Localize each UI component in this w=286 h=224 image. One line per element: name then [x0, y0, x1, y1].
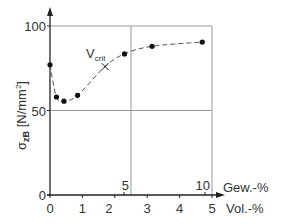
- svg-text:σzB [N/mm2]: σzB [N/mm2]: [14, 81, 31, 150]
- x-label-vol: Vol.-%: [226, 201, 264, 216]
- vcrit-label: Vcrit: [86, 46, 106, 63]
- y-axis-label: σzB [N/mm2]: [14, 81, 31, 150]
- data-point: [75, 93, 80, 98]
- y-label-subscript: zB: [21, 130, 31, 142]
- y-tick-label: 100: [24, 19, 46, 34]
- data-points: [47, 39, 204, 103]
- axes: [47, 7, 225, 198]
- dashed-trend-curve: [50, 42, 202, 102]
- data-point: [47, 62, 52, 67]
- vcrit-annotation: Vcrit: [86, 46, 109, 70]
- x-tick-label-vol: 0: [46, 201, 53, 216]
- x-tick-label-gew: 10: [196, 178, 210, 193]
- y-label-unit: [N/mm: [14, 89, 29, 131]
- x-tick-label-vol: 1: [79, 201, 86, 216]
- data-point: [200, 39, 205, 44]
- x-tick-label-vol: 5: [208, 201, 215, 216]
- y-tick-label: 50: [32, 104, 46, 119]
- grid-lines: [50, 26, 212, 195]
- data-point: [149, 44, 154, 49]
- x-tick-label-gew: 5: [122, 178, 129, 193]
- data-point: [61, 99, 66, 104]
- data-point: [54, 94, 59, 99]
- y-axis-arrow-icon: [47, 7, 53, 16]
- tick-labels: 050100012345510: [24, 19, 215, 216]
- data-point: [122, 51, 127, 56]
- x-label-gew: Gew.-%: [223, 180, 269, 195]
- y-label-close: ]: [14, 81, 29, 85]
- x-tick-label-vol: 3: [144, 201, 151, 216]
- trend-line: [50, 42, 202, 102]
- x-tick-label-vol: 4: [176, 201, 183, 216]
- y-label-sigma: σ: [14, 142, 29, 150]
- chart: Vcrit 050100012345510 σzB [N/mm2] Gew.-%…: [0, 0, 286, 224]
- y-tick-label: 0: [39, 188, 46, 203]
- x-tick-label-vol: 2: [105, 201, 112, 216]
